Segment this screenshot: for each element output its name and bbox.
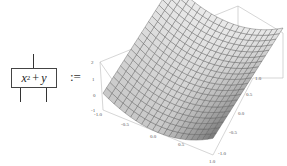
input-wire-x: [20, 88, 21, 102]
z-axis-ticks: 2 1 0 -1: [91, 60, 96, 113]
svg-text:0.5: 0.5: [246, 92, 253, 97]
output-wire: [33, 54, 34, 68]
expression-exponent: 2: [27, 74, 31, 82]
svg-text:1.0: 1.0: [209, 159, 216, 164]
svg-text:-1.0: -1.0: [218, 151, 226, 156]
svg-text:0.0: 0.0: [238, 111, 245, 116]
surface-plot-svg: 2 1 0 -1 -1.0 -0.5 0.0 0.5 1.0 -1.0 -0.5…: [88, 0, 287, 166]
svg-text:2: 2: [91, 60, 94, 65]
svg-text:0.5: 0.5: [178, 142, 185, 147]
svg-text:1.0: 1.0: [255, 76, 262, 81]
surface-mesh: [103, 0, 283, 140]
svg-text:0.0: 0.0: [150, 134, 157, 139]
expression-box: x2+y: [11, 68, 57, 88]
expression-variable: y: [41, 71, 46, 86]
surface-plot: 2 1 0 -1 -1.0 -0.5 0.0 0.5 1.0 -1.0 -0.5…: [88, 0, 287, 166]
definition-symbol: :=: [70, 69, 81, 85]
svg-text:0: 0: [93, 93, 96, 98]
function-box-diagram: x2+y :=: [0, 0, 100, 166]
svg-text:1: 1: [92, 77, 95, 82]
svg-text:-0.5: -0.5: [121, 122, 129, 127]
svg-text:-0.5: -0.5: [229, 130, 237, 135]
expression-operator: +: [32, 71, 39, 86]
svg-text:-1.0: -1.0: [94, 112, 102, 117]
input-wire-y: [46, 88, 47, 102]
